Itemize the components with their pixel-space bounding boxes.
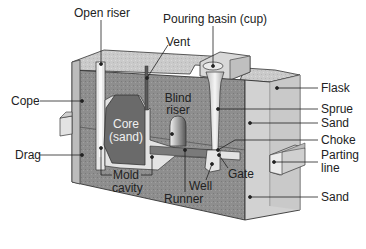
label-core-2: (sand)	[106, 131, 146, 144]
label-open-riser: Open riser	[74, 7, 130, 20]
label-sand-upper: Sand	[321, 117, 349, 130]
label-cope: Cope	[11, 95, 40, 108]
label-mold-cavity-2: cavity	[112, 182, 143, 195]
label-choke: Choke	[321, 134, 356, 147]
label-pouring-basin: Pouring basin (cup)	[163, 13, 267, 26]
blind-riser	[170, 116, 186, 146]
label-parting-line-2: line	[321, 162, 340, 175]
label-vent: Vent	[166, 36, 190, 49]
open-riser	[96, 62, 105, 170]
vent	[145, 66, 148, 110]
label-sprue: Sprue	[321, 103, 353, 116]
label-sand-lower: Sand	[321, 191, 349, 204]
flask-left-edge	[72, 60, 80, 184]
label-blind-riser-2: riser	[158, 104, 198, 117]
label-gate: Gate	[228, 168, 254, 181]
well	[205, 150, 220, 172]
left-alignment-pin	[60, 112, 72, 136]
label-drag: Drag	[15, 149, 41, 162]
label-flask: Flask	[321, 82, 350, 95]
label-runner: Runner	[164, 193, 203, 206]
